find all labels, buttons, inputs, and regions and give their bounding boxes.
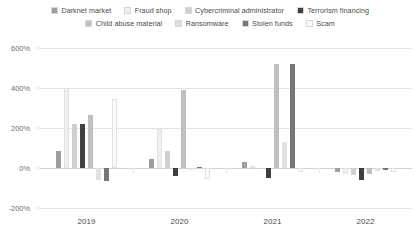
y-axis-tick-label: 200%	[0, 124, 30, 133]
legend-item[interactable]: Darknet market	[51, 4, 111, 17]
legend-item-label: Terrorism financing	[307, 4, 369, 17]
bar	[282, 142, 287, 168]
y-axis-tick-label: 600%	[0, 44, 30, 53]
bar	[298, 168, 303, 172]
legend-item-label: Ransomware	[186, 17, 229, 30]
legend-item-label: Scam	[316, 17, 335, 30]
bar	[335, 168, 340, 172]
legend-item[interactable]: Ransomware	[175, 17, 228, 30]
legend-swatch-icon	[242, 20, 249, 27]
bar	[351, 168, 356, 175]
x-axis-group-separator	[226, 168, 227, 173]
bar	[72, 124, 77, 168]
bar	[383, 168, 388, 170]
y-axis-tick-mark	[36, 48, 39, 49]
bar	[258, 168, 263, 169]
bar	[189, 168, 194, 170]
bar	[375, 168, 380, 171]
bar	[64, 88, 69, 168]
legend-item-label: Stolen funds	[252, 17, 293, 30]
gridline	[40, 208, 412, 209]
bar	[274, 64, 279, 168]
x-axis-tick-label: 2020	[171, 217, 189, 226]
bar	[290, 64, 295, 168]
bar	[157, 129, 162, 168]
bar	[88, 115, 93, 168]
bar	[359, 168, 364, 180]
gridline	[40, 48, 412, 49]
x-axis-tick-label: 2019	[78, 217, 96, 226]
plot-area: 600%400%200%0%-200%2019202020212022	[40, 48, 412, 208]
legend-swatch-icon	[85, 20, 92, 27]
bar	[56, 151, 61, 168]
bar	[266, 168, 271, 178]
gridline	[40, 128, 412, 129]
bar	[149, 159, 154, 168]
bar	[391, 168, 396, 172]
y-axis-tick-label: 400%	[0, 84, 30, 93]
legend-item[interactable]: Cybercriminal administrator	[185, 4, 284, 17]
bar	[242, 162, 247, 168]
x-axis-tick-label: 2021	[264, 217, 282, 226]
y-axis-tick-mark	[36, 128, 39, 129]
y-axis-tick-mark	[36, 168, 39, 169]
x-axis-group-separator	[133, 168, 134, 173]
legend-item-label: Child abuse material	[96, 17, 163, 30]
legend-item-label: Fraud shop	[135, 4, 172, 17]
bar	[96, 168, 101, 180]
gridline	[40, 88, 412, 89]
bar	[367, 168, 372, 174]
bar	[80, 124, 85, 168]
legend-row-1: Darknet marketFraud shopCybercriminal ad…	[0, 4, 420, 17]
bar	[205, 168, 210, 179]
legend-item-label: Darknet market	[61, 4, 111, 17]
x-axis-group-separator	[319, 168, 320, 173]
bar	[165, 151, 170, 168]
bar	[181, 90, 186, 168]
legend-swatch-icon	[175, 20, 182, 27]
bar	[343, 168, 348, 174]
legend-swatch-icon	[124, 7, 131, 14]
legend-item-label: Cybercriminal administrator	[195, 4, 284, 17]
bar-chart: Darknet marketFraud shopCybercriminal ad…	[0, 0, 420, 238]
legend-item[interactable]: Scam	[306, 17, 335, 30]
y-axis-tick-mark	[36, 208, 39, 209]
legend-item[interactable]: Child abuse material	[85, 17, 162, 30]
y-axis-tick-label: 0%	[0, 164, 30, 173]
bar	[197, 167, 202, 168]
legend-swatch-icon	[51, 7, 58, 14]
legend-item[interactable]: Stolen funds	[242, 17, 293, 30]
y-axis-tick-mark	[36, 88, 39, 89]
legend-row-2: Child abuse materialRansomwareStolen fun…	[0, 17, 420, 30]
bar	[112, 99, 117, 168]
legend-item[interactable]: Fraud shop	[124, 4, 171, 17]
legend-swatch-icon	[185, 7, 192, 14]
bar	[104, 168, 109, 181]
bar	[250, 166, 255, 168]
bar	[173, 168, 178, 176]
legend-item[interactable]: Terrorism financing	[297, 4, 369, 17]
x-axis-tick-label: 2022	[357, 217, 375, 226]
chart-legend: Darknet marketFraud shopCybercriminal ad…	[0, 4, 420, 30]
y-axis-tick-label: -200%	[0, 204, 30, 213]
legend-swatch-icon	[297, 7, 304, 14]
legend-swatch-icon	[306, 20, 313, 27]
